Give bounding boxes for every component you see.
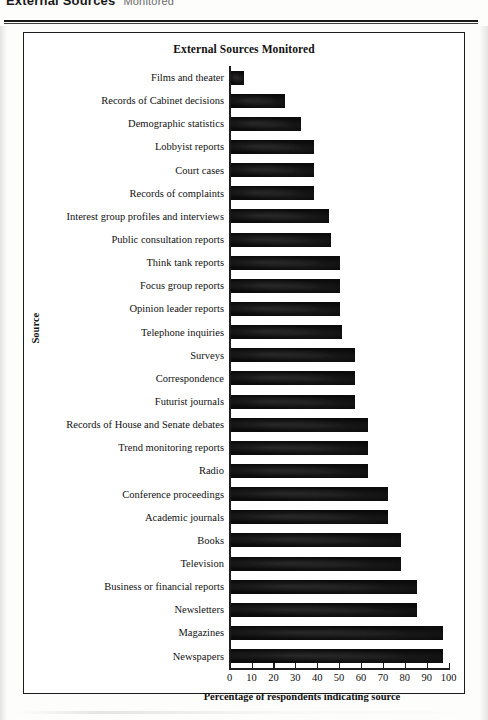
figure-frame: External Sources Monitored Source Films … bbox=[23, 32, 465, 694]
y-axis-tick-label-row: Television bbox=[52, 552, 227, 575]
y-axis-tick-label-row: Lobbyist reports bbox=[52, 135, 227, 158]
y-axis-tick-label: Think tank reports bbox=[146, 257, 227, 268]
bar-row bbox=[231, 135, 450, 158]
y-axis-tick-label-row: Records of House and Senate debates bbox=[52, 413, 227, 436]
bar-row bbox=[231, 205, 450, 228]
y-axis-tick-label: Interest group profiles and interviews bbox=[67, 211, 227, 222]
bar-row bbox=[231, 575, 450, 598]
y-axis-tick-label-row: Focus group reports bbox=[52, 274, 227, 297]
x-axis-tick-label: 70 bbox=[378, 672, 389, 683]
bar bbox=[231, 117, 301, 131]
y-axis-tick-label-row: Demographic statistics bbox=[52, 112, 227, 135]
x-axis-tick bbox=[317, 663, 318, 668]
bar-row bbox=[231, 274, 450, 297]
header-rule bbox=[4, 20, 478, 22]
y-axis-tick-label-row: Newsletters bbox=[52, 598, 227, 621]
y-axis-tick-label-row: Think tank reports bbox=[52, 251, 227, 274]
y-axis-tick-label: Books bbox=[197, 535, 227, 546]
y-axis-tick-label-row: Telephone inquiries bbox=[52, 321, 227, 344]
running-header-light: Monitored bbox=[123, 0, 174, 5]
y-axis-tick-label-row: Conference proceedings bbox=[52, 483, 227, 506]
scanned-page: External Sources Monitored External Sour… bbox=[0, 0, 488, 720]
bar-row bbox=[231, 621, 450, 644]
bar bbox=[231, 533, 402, 547]
bar-row bbox=[231, 66, 450, 89]
y-axis-tick-label: Focus group reports bbox=[140, 280, 227, 291]
y-axis-tick-label-row: Court cases bbox=[52, 159, 227, 182]
y-axis-tick-label-row: Interest group profiles and interviews bbox=[52, 205, 227, 228]
page-left-edge-shadow bbox=[0, 26, 7, 720]
bar bbox=[231, 140, 314, 154]
running-header-bold: External Sources bbox=[6, 0, 115, 5]
y-axis-tick-label-row: Public consultation reports bbox=[52, 228, 227, 251]
bar bbox=[231, 418, 369, 432]
bar bbox=[231, 348, 356, 362]
bar bbox=[231, 557, 402, 571]
bar-row bbox=[231, 159, 450, 182]
header-rule-secondary bbox=[4, 23, 478, 24]
x-axis-tick bbox=[230, 663, 231, 668]
bar bbox=[231, 603, 417, 617]
y-axis-tick-label-row: Radio bbox=[52, 459, 227, 482]
y-axis-tick-label: Court cases bbox=[175, 165, 227, 176]
bar-row bbox=[231, 436, 450, 459]
y-axis-tick-label: Telephone inquiries bbox=[141, 327, 227, 338]
y-axis-tick-label: Trend monitoring reports bbox=[118, 442, 227, 453]
y-axis-tick-label-row: Futurist journals bbox=[52, 390, 227, 413]
x-axis-tick bbox=[361, 663, 362, 668]
y-axis-tick-label: Magazines bbox=[179, 627, 227, 638]
x-axis-tick bbox=[273, 663, 274, 668]
bar bbox=[231, 371, 356, 385]
y-axis-tick-label-row: Business or financial reports bbox=[52, 575, 227, 598]
y-axis-tick-label-row: Records of complaints bbox=[52, 182, 227, 205]
y-axis-tick-label-row: Trend monitoring reports bbox=[52, 436, 227, 459]
bar-row bbox=[231, 483, 450, 506]
y-axis-tick-label: Demographic statistics bbox=[128, 118, 227, 129]
x-axis-tick-label: 100 bbox=[441, 672, 457, 683]
bar-series bbox=[231, 66, 450, 668]
y-axis-tick-label-row: Academic journals bbox=[52, 506, 227, 529]
y-axis-tick-label: Conference proceedings bbox=[122, 489, 227, 500]
bar bbox=[231, 325, 343, 339]
bar-row bbox=[231, 529, 450, 552]
bar-row bbox=[231, 598, 450, 621]
bar bbox=[231, 256, 341, 270]
bar bbox=[231, 302, 341, 316]
y-axis-title: Source bbox=[30, 330, 41, 344]
y-axis-tick-label-row: Records of Cabinet decisions bbox=[52, 89, 227, 112]
y-axis-tick-label-row: Films and theater bbox=[52, 66, 227, 89]
bar bbox=[231, 279, 341, 293]
y-axis-tick-label: Newspapers bbox=[173, 651, 227, 662]
x-axis-tick-label: 90 bbox=[421, 672, 432, 683]
bar bbox=[231, 441, 369, 455]
y-axis-tick-label-row: Newspapers bbox=[52, 645, 227, 668]
page-right-edge-shadow bbox=[479, 26, 488, 720]
y-axis-tick-label-row: Books bbox=[52, 529, 227, 552]
bar bbox=[231, 580, 417, 594]
bar-row bbox=[231, 344, 450, 367]
x-axis-tick bbox=[295, 663, 296, 668]
x-axis-tick-label: 20 bbox=[268, 672, 279, 683]
y-axis-tick-label-row: Correspondence bbox=[52, 367, 227, 390]
x-axis-tick bbox=[449, 663, 450, 668]
y-axis-tick-label: Films and theater bbox=[151, 72, 227, 83]
y-axis-tick-label: Correspondence bbox=[156, 373, 227, 384]
bar bbox=[231, 209, 330, 223]
bar-row bbox=[231, 297, 450, 320]
x-axis-tick bbox=[252, 663, 253, 668]
bar bbox=[231, 395, 356, 409]
x-axis: 0102030405060708090100 bbox=[229, 668, 452, 669]
bar bbox=[231, 464, 369, 478]
running-header: External Sources Monitored bbox=[6, 0, 174, 5]
bar bbox=[231, 649, 443, 663]
bar-row bbox=[231, 321, 450, 344]
bar-row bbox=[231, 182, 450, 205]
x-axis-tick-label: 40 bbox=[312, 672, 323, 683]
y-axis-tick-label: Public consultation reports bbox=[111, 234, 227, 245]
bar bbox=[231, 510, 389, 524]
bar bbox=[231, 233, 332, 247]
bar bbox=[231, 71, 244, 85]
bar-row bbox=[231, 251, 450, 274]
bar-row bbox=[231, 228, 450, 251]
bar-row bbox=[231, 552, 450, 575]
